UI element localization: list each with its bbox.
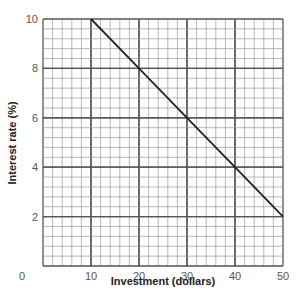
y-tick-label: 2 [32,211,38,223]
y-tick-label: 10 [26,13,38,25]
grid [43,19,283,266]
x-tick-label: 40 [229,270,241,282]
x-axis-label: Investment (dollars) [111,275,216,287]
y-tick-label: 4 [32,161,38,173]
y-tick-label: 8 [32,62,38,74]
y-axis-label: Interest rate (%) [6,101,18,184]
investment-demand-chart: 01020304050 246810 Investment (dollars) … [0,0,299,303]
x-tick-label: 10 [85,270,97,282]
x-tick-label: 0 [19,270,25,282]
y-axis-ticks: 246810 [26,13,38,223]
x-tick-label: 50 [277,270,289,282]
y-tick-label: 6 [32,112,38,124]
